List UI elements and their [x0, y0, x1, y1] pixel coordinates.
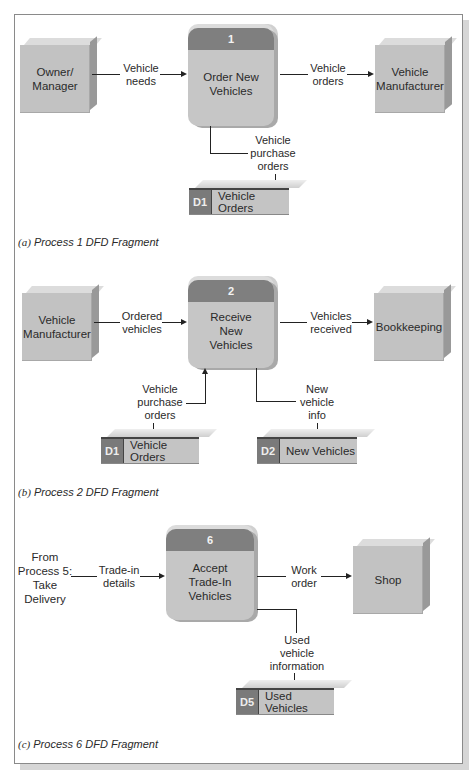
caption-c: (c) Process 6 DFD Fragment [18, 738, 158, 750]
flow-line [210, 126, 211, 154]
process-1-order-new-vehicles: 1 Order NewVehicles [188, 28, 274, 126]
process-name: ReceiveNewVehicles [188, 302, 274, 368]
store-id: D5 [236, 690, 259, 714]
process-number: 1 [188, 28, 274, 50]
flow-label-vehicle-needs: Vehicleneeds [120, 62, 162, 88]
flow-line [205, 374, 206, 404]
process-6-accept-trade-in-vehicles: 6 AcceptTrade-InVehicles [166, 529, 254, 620]
flow-line [257, 609, 297, 610]
flow-label-vehicle-orders: Vehicleorders [308, 62, 348, 88]
store-name: Used Vehicles [259, 690, 334, 714]
process-number: 2 [188, 280, 274, 302]
data-store-d2-new-vehicles: D2 New Vehicles [257, 437, 357, 464]
flow-line [256, 368, 257, 402]
flow-line [71, 576, 99, 577]
flow-line [184, 403, 206, 404]
flow-label-vehicle-purchase-orders: Vehiclepurchaseorders [248, 134, 298, 173]
caption-b: (b) Process 2 DFD Fragment [18, 486, 159, 498]
source-from-process-5: FromProcess 5:TakeDelivery [14, 550, 76, 606]
store-name: Vehicle Orders [212, 190, 289, 214]
flow-line [140, 576, 160, 577]
flow-label-vehicle-purchase-orders: Vehiclepurchaseorders [134, 383, 186, 422]
arrowhead-icon [202, 368, 208, 374]
process-name: Order NewVehicles [188, 50, 274, 126]
flow-line [160, 74, 182, 75]
flow-line [280, 322, 310, 323]
entity-vehicle-manufacturer: VehicleManufacturer [375, 45, 445, 113]
flow-line [347, 74, 369, 75]
flow-line [257, 576, 287, 577]
arrowhead-icon [159, 573, 165, 579]
flow-line [92, 74, 122, 75]
flow-line [280, 74, 310, 75]
store-id: D1 [101, 439, 124, 463]
flow-label-ordered-vehicles: Orderedvehicles [120, 310, 164, 336]
entity-shop: Shop [353, 546, 423, 614]
entity-owner-manager: Owner/Manager [20, 45, 90, 113]
flow-label-new-vehicle-info: Newvehicleinfo [296, 383, 338, 422]
caption-a: (a) Process 1 DFD Fragment [18, 236, 159, 248]
arrowhead-icon [181, 319, 187, 325]
flow-line [352, 322, 368, 323]
flow-line [321, 576, 347, 577]
store-name: Vehicle Orders [124, 439, 199, 463]
flow-line [210, 153, 250, 154]
arrowhead-icon [181, 71, 187, 77]
process-2-receive-new-vehicles: 2 ReceiveNewVehicles [188, 280, 274, 368]
figure-frame [14, 14, 463, 764]
process-number: 6 [166, 529, 254, 551]
entity-bookkeeping: Bookkeeping [374, 293, 444, 361]
flow-line [296, 609, 297, 633]
arrowhead-icon [368, 71, 374, 77]
flow-label-used-vehicle-information: Usedvehicleinformation [266, 634, 328, 673]
flow-label-vehicles-received: Vehiclesreceived [307, 310, 355, 336]
flow-label-trade-in-details: Trade-indetails [97, 564, 141, 590]
store-id: D1 [189, 190, 212, 214]
data-store-d1-vehicle-orders: D1 Vehicle Orders [189, 188, 289, 215]
flow-line [162, 322, 182, 323]
store-id: D2 [257, 439, 280, 463]
flow-line [256, 401, 298, 402]
arrowhead-icon [346, 573, 352, 579]
data-store-d5-used-vehicles: D5 Used Vehicles [236, 688, 334, 715]
data-store-d1-vehicle-orders: D1 Vehicle Orders [101, 437, 199, 464]
process-name: AcceptTrade-InVehicles [166, 551, 254, 620]
arrowhead-icon [367, 319, 373, 325]
store-name: New Vehicles [280, 439, 357, 463]
entity-vehicle-manufacturer: VehicleManufacturer [22, 293, 92, 361]
flow-line [94, 322, 122, 323]
flow-label-work-order: Workorder [286, 564, 322, 590]
